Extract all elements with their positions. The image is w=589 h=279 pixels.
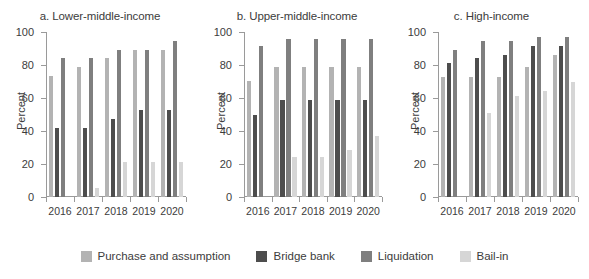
panel-b-y-tick-label: 80	[220, 59, 232, 71]
bar	[49, 76, 54, 197]
panel-a-y-axis	[46, 32, 47, 197]
legend-item-3: Bail-in	[460, 250, 509, 262]
bar	[161, 50, 166, 197]
panel-b-x-tick	[354, 197, 355, 202]
bar	[151, 162, 156, 197]
panel-c-y-tick: 100	[433, 32, 438, 33]
legend-swatch-icon	[81, 251, 92, 262]
panel-a-x-tick-label: 2017	[76, 205, 99, 217]
bar	[259, 46, 264, 197]
bar	[503, 55, 508, 197]
panel-b-y-tick-label: 20	[220, 158, 232, 170]
panel-b-title: b. Upper-middle-income	[200, 10, 394, 22]
panel-b-x-tick	[327, 197, 328, 202]
bar	[280, 100, 285, 197]
bar	[335, 100, 340, 197]
bar	[55, 128, 60, 197]
panels-container: a. Lower-middle-income Percent 020406080…	[0, 10, 589, 242]
bar	[167, 110, 172, 197]
panel-c-x-tick-label: 2020	[552, 205, 575, 217]
panel-a-y-tick: 100	[41, 32, 46, 33]
panel-c-y-tick: 60	[433, 98, 438, 99]
panel-c: c. High-income Percent 02040608010020162…	[394, 10, 589, 242]
bar	[357, 67, 362, 197]
bar	[515, 96, 520, 197]
bar	[314, 39, 319, 197]
panel-c-x-tick-label: 2016	[440, 205, 463, 217]
panel-b-x-tick	[272, 197, 273, 202]
panel-c-x-tick-label: 2017	[468, 205, 491, 217]
panel-c-plot-area: 02040608010020162017201820192020	[438, 32, 578, 197]
panel-b-y-tick-label: 0	[226, 191, 232, 203]
bar	[123, 162, 128, 197]
panel-b-x-tick	[382, 197, 383, 202]
bar	[77, 67, 82, 197]
panel-b-y-axis	[244, 32, 245, 197]
panel-a-x-tick	[158, 197, 159, 202]
panel-b-y-tick: 80	[239, 65, 244, 66]
panel-a-x-tick-label: 2019	[132, 205, 155, 217]
bar	[133, 50, 138, 197]
bar	[375, 136, 380, 197]
panel-a-x-tick	[102, 197, 103, 202]
legend-swatch-icon	[460, 251, 471, 262]
panel-c-x-tick	[578, 197, 579, 202]
bar	[481, 41, 486, 197]
bar	[253, 115, 258, 198]
panel-a-y-tick: 80	[41, 65, 46, 66]
panel-b-y-tick: 60	[239, 98, 244, 99]
legend-label: Liquidation	[378, 250, 434, 262]
bar	[61, 58, 66, 197]
bar	[369, 39, 374, 197]
panel-a-y-tick-label: 40	[22, 125, 34, 137]
legend-swatch-icon	[361, 251, 372, 262]
panel-b-y-tick-label: 40	[220, 125, 232, 137]
panel-b-x-tick-label: 2016	[246, 205, 269, 217]
panel-a-title: a. Lower-middle-income	[0, 10, 200, 22]
bar	[553, 55, 558, 197]
panel-a-y-tick-label: 60	[22, 92, 34, 104]
panel-a-y-tick-label: 20	[22, 158, 34, 170]
panel-c-y-axis	[438, 32, 439, 197]
figure-root: a. Lower-middle-income Percent 020406080…	[0, 0, 589, 279]
bar	[95, 188, 100, 197]
bar	[173, 41, 178, 197]
panel-a-x-tick	[74, 197, 75, 202]
panel-a-plot-area: 02040608010020162017201820192020	[46, 32, 186, 197]
panel-b-x-tick	[299, 197, 300, 202]
bar	[308, 100, 313, 197]
bar	[571, 82, 576, 198]
bar	[341, 39, 346, 197]
panel-a-y-tick-label: 80	[22, 59, 34, 71]
panel-a-x-tick-label: 2016	[48, 205, 71, 217]
panel-b-y-tick-label: 100	[214, 26, 232, 38]
bar	[89, 58, 94, 197]
bar	[531, 46, 536, 197]
panel-c-y-tick: 40	[433, 131, 438, 132]
panel-a-y-tick-label: 0	[28, 191, 34, 203]
bar	[139, 110, 144, 197]
panel-b-x-tick-label: 2017	[274, 205, 297, 217]
bar	[453, 50, 458, 197]
chart-legend: Purchase and assumptionBridge bankLiquid…	[0, 250, 589, 262]
panel-a-x-tick	[46, 197, 47, 202]
panel-c-y-tick-label: 60	[414, 92, 426, 104]
panel-b-x-tick-label: 2018	[301, 205, 324, 217]
bar	[363, 100, 368, 197]
bar	[302, 67, 307, 197]
panel-c-title: c. High-income	[394, 10, 589, 22]
panel-c-x-tick	[550, 197, 551, 202]
panel-a-y-tick: 20	[41, 164, 46, 165]
bar	[274, 67, 279, 197]
legend-label: Bail-in	[477, 250, 509, 262]
bar	[447, 63, 452, 197]
bar	[247, 81, 252, 197]
bar	[497, 77, 502, 197]
panel-c-y-tick: 80	[433, 65, 438, 66]
panel-c-y-tick-label: 40	[414, 125, 426, 137]
panel-b-y-tick: 100	[239, 32, 244, 33]
bar	[441, 77, 446, 197]
bar	[145, 50, 150, 197]
legend-item-0: Purchase and assumption	[81, 250, 231, 262]
bar	[559, 46, 564, 197]
